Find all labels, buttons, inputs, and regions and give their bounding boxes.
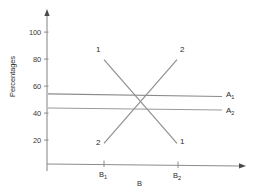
x-tick-label-b1: B1 [99, 170, 107, 179]
y-tick-label-80: 80 [16, 55, 41, 64]
y-tick-label-60: 60 [16, 82, 41, 91]
y-tick-label-20: 20 [16, 136, 41, 145]
endpoint-label-2-bottom: 2 [96, 138, 100, 147]
y-axis-ticks [44, 32, 49, 140]
series-label-a1: A1 [226, 90, 234, 99]
x-tick-label-b1-sub: 1 [104, 174, 107, 180]
endpoint-label-2-top: 2 [180, 45, 184, 54]
x-tick-label-b2-sub: 2 [178, 175, 181, 181]
y-axis-arrow-icon [44, 9, 49, 16]
x-axis-title: B [137, 179, 142, 188]
y-tick-label-100: 100 [16, 28, 41, 37]
series-label-a2: A2 [226, 106, 234, 115]
chart-container: 100 80 60 40 20 Percentages B1 B2 B A1 A… [0, 0, 261, 191]
endpoint-label-1-top: 1 [96, 45, 100, 54]
x-axis-line [47, 164, 241, 166]
x-axis-arrow-icon [239, 163, 246, 168]
y-tick-label-40: 40 [16, 109, 41, 118]
x-tick-label-b2: B2 [173, 171, 181, 180]
endpoint-label-1-bottom: 1 [180, 137, 184, 146]
y-axis-title: Percentages [8, 44, 17, 110]
